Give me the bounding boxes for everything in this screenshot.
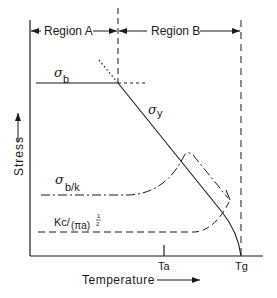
y-axis-label: Stress (12, 136, 26, 176)
x-axis-label: Temperature (82, 273, 155, 287)
kc-label-paren: (πa) (71, 220, 90, 231)
kc-curve: Kc/ (πa) 1 2 (38, 202, 229, 232)
tg-tick-label: Tg (235, 260, 248, 272)
sigma-b-curve: σ b (36, 60, 147, 85)
y-axis-label-group: Stress (12, 113, 26, 176)
ta-tick-label: Ta (158, 260, 171, 272)
sigma-b-label-sub: b (63, 73, 69, 85)
kc-label-exp-den: 2 (96, 221, 100, 227)
sigma-y-label-sub: y (157, 107, 163, 119)
x-axis-label-group: Temperature (82, 273, 200, 287)
region-boundaries (118, 8, 241, 256)
sigma-bk-label-main: σ (55, 172, 65, 187)
sigma-bk-label-sub: b/k (65, 181, 80, 193)
kc-label-exp-num: 1 (97, 213, 101, 219)
kc-label-main: Kc/ (54, 216, 71, 228)
sigma-y-curve: σ y (118, 83, 241, 256)
region-b-label: Region B (151, 24, 200, 38)
sigma-bk-curve: σ b/k (41, 153, 230, 200)
region-b-span: Region B (119, 24, 240, 38)
region-a-span: Region A (31, 24, 117, 38)
region-a-label: Region A (44, 24, 93, 38)
stress-temperature-diagram: Region A Region B σ b σ y σ b/k (0, 0, 277, 298)
